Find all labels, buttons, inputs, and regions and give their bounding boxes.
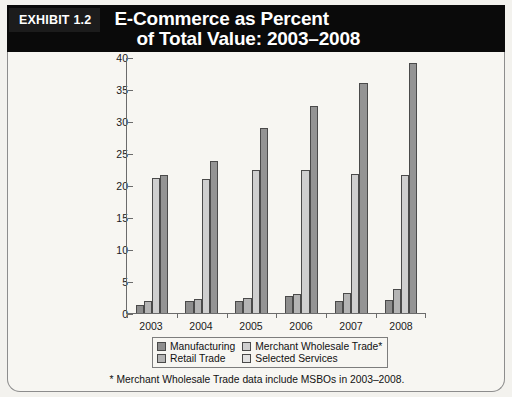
legend-label: Selected Services [255, 353, 337, 364]
bar [243, 298, 251, 313]
bar-group [127, 58, 177, 313]
bar [385, 300, 393, 313]
legend-item: Manufacturing [157, 341, 235, 352]
bar-group [276, 58, 326, 313]
bar [301, 170, 309, 313]
bar [310, 106, 318, 313]
x-tick-label: 2006 [276, 320, 326, 332]
chart-panel: 0510152025303540 20032004200520062007200… [7, 52, 505, 392]
x-tick-label: 2003 [126, 320, 176, 332]
bar [359, 83, 367, 313]
bar [393, 289, 401, 313]
bar-group [326, 58, 376, 313]
bar [160, 175, 168, 313]
bar [185, 301, 193, 313]
y-tick-mark [128, 314, 133, 315]
bar-group [376, 58, 426, 313]
x-tick-label: 2007 [326, 320, 376, 332]
legend-swatch [157, 342, 166, 351]
title-line-1: E-Commerce as Percent [114, 9, 360, 29]
chart-footnote: * Merchant Wholesale Trade data include … [8, 374, 506, 385]
bar [194, 299, 202, 313]
bar [202, 179, 210, 313]
legend-label: Retail Trade [170, 353, 226, 364]
bar-group [227, 58, 277, 313]
legend-swatch [242, 342, 251, 351]
legend-item: Retail Trade [157, 353, 235, 364]
bar [235, 301, 243, 313]
legend-swatch [157, 354, 166, 363]
legend-item: Selected Services [242, 353, 382, 364]
bar-groups [127, 58, 426, 313]
exhibit-title: E-Commerce as Percent of Total Value: 20… [114, 8, 360, 49]
legend-label: Merchant Wholesale Trade* [255, 341, 382, 352]
title-line-2: of Total Value: 2003–2008 [114, 29, 360, 49]
bar [252, 170, 260, 313]
plot-area [126, 58, 426, 314]
x-tick-label: 2005 [226, 320, 276, 332]
x-axis-labels: 200320042005200620072008 [126, 320, 426, 332]
exhibit-container: EXHIBIT 1.2 E-Commerce as Percent of Tot… [0, 0, 512, 397]
bar [343, 293, 351, 313]
bar [335, 301, 343, 313]
x-tick-label: 2004 [176, 320, 226, 332]
bar [260, 128, 268, 313]
bar [144, 301, 152, 313]
bar [351, 174, 359, 313]
legend-item: Merchant Wholesale Trade* [242, 341, 382, 352]
bar [401, 175, 409, 313]
x-tick-mark [326, 313, 327, 318]
chart-legend: ManufacturingMerchant Wholesale Trade*Re… [152, 337, 388, 368]
x-tick-mark [376, 313, 377, 318]
bar [152, 178, 160, 313]
x-tick-mark [127, 313, 128, 318]
x-tick-mark [177, 313, 178, 318]
legend-label: Manufacturing [170, 341, 235, 352]
x-tick-mark [425, 313, 426, 318]
bar [285, 296, 293, 313]
x-tick-mark [276, 313, 277, 318]
bar [136, 305, 144, 313]
x-tick-mark [227, 313, 228, 318]
bar [210, 161, 218, 313]
legend-swatch [242, 354, 251, 363]
exhibit-header: EXHIBIT 1.2 E-Commerce as Percent of Tot… [7, 5, 505, 52]
exhibit-number-tag: EXHIBIT 1.2 [9, 8, 100, 32]
bar [293, 294, 301, 313]
x-tick-label: 2008 [376, 320, 426, 332]
y-axis: 0510152025303540 [104, 52, 128, 314]
bar [409, 63, 417, 313]
bar-group [177, 58, 227, 313]
